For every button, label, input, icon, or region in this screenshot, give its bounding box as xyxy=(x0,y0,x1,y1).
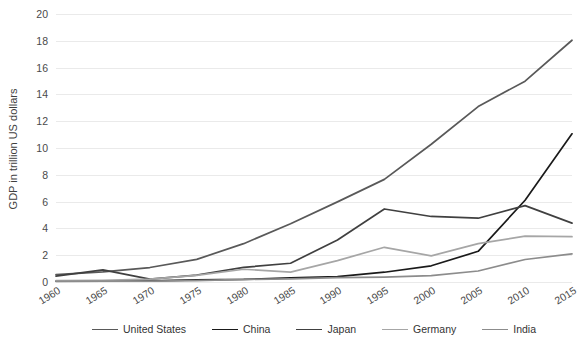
y-tick-label: 20 xyxy=(26,9,48,20)
legend-label: India xyxy=(513,323,536,335)
x-tick-label: 1980 xyxy=(224,284,250,307)
series-line-united-states xyxy=(56,40,572,274)
x-axis-tick-labels: 1960196519701975198019851990199520002005… xyxy=(56,282,572,316)
y-axis-title: GDP in trillion US dollars xyxy=(2,8,24,290)
x-tick-label: 1990 xyxy=(318,284,344,307)
plot-area xyxy=(56,14,572,282)
x-tick-label: 2000 xyxy=(411,284,437,307)
x-tick-label: 2005 xyxy=(458,284,484,307)
legend-line-swatch xyxy=(212,329,238,330)
series-line-japan xyxy=(56,206,572,280)
y-axis-title-text: GDP in trillion US dollars xyxy=(7,89,19,210)
series-lines xyxy=(56,14,572,282)
chart-legend: United StatesChinaJapanGermanyIndia xyxy=(56,318,572,340)
legend-item-china[interactable]: China xyxy=(212,323,270,335)
gdp-line-chart: GDP in trillion US dollars 0246810121416… xyxy=(0,0,581,343)
legend-label: United States xyxy=(123,323,186,335)
x-tick-label: 2015 xyxy=(552,284,578,307)
legend-item-united-states[interactable]: United States xyxy=(92,323,186,335)
legend-line-swatch xyxy=(92,329,118,330)
y-tick-label: 0 xyxy=(26,277,48,288)
x-tick-label: 1995 xyxy=(365,284,391,307)
legend-label: Japan xyxy=(327,323,356,335)
x-tick-label: 1970 xyxy=(130,284,156,307)
legend-line-swatch xyxy=(382,329,408,330)
y-tick-label: 14 xyxy=(26,89,48,100)
y-tick-label: 12 xyxy=(26,116,48,127)
y-tick-label: 6 xyxy=(26,196,48,207)
x-tick-label: 1975 xyxy=(177,284,203,307)
x-tick-label: 2010 xyxy=(505,284,531,307)
y-tick-label: 16 xyxy=(26,62,48,73)
y-tick-label: 10 xyxy=(26,143,48,154)
legend-item-japan[interactable]: Japan xyxy=(296,323,356,335)
series-line-germany xyxy=(56,236,572,280)
legend-line-swatch xyxy=(296,329,322,330)
x-tick-label: 1965 xyxy=(83,284,109,307)
y-tick-label: 4 xyxy=(26,223,48,234)
y-tick-label: 2 xyxy=(26,250,48,261)
y-tick-label: 8 xyxy=(26,170,48,181)
legend-item-india[interactable]: India xyxy=(482,323,536,335)
legend-label: China xyxy=(243,323,270,335)
y-tick-label: 18 xyxy=(26,36,48,47)
x-tick-label: 1985 xyxy=(271,284,297,307)
legend-item-germany[interactable]: Germany xyxy=(382,323,456,335)
legend-label: Germany xyxy=(413,323,456,335)
series-line-china xyxy=(56,134,572,281)
legend-line-swatch xyxy=(482,329,508,330)
